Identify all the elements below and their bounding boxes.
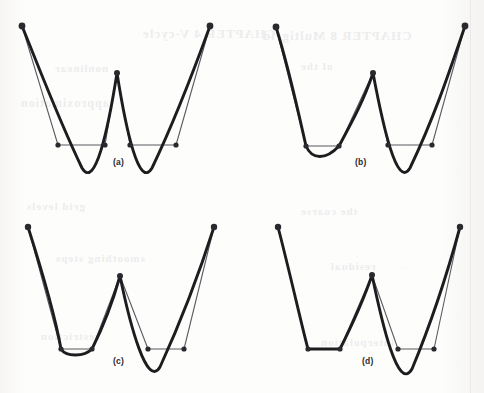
vertex-dot	[127, 142, 132, 147]
vertex-dot	[395, 346, 400, 351]
vertex-dot	[55, 142, 60, 147]
panel-d-approx-polyline	[278, 227, 460, 349]
panel-d-label: (d)	[362, 356, 373, 366]
vertex-dot	[145, 346, 150, 351]
panel-a-smooth-curve	[22, 26, 210, 173]
vertex-dot	[19, 23, 26, 30]
vertex-dot	[207, 23, 214, 30]
panel-b-smooth-curve	[276, 26, 465, 172]
vertex-dot	[58, 346, 63, 351]
vertex-dot	[336, 143, 341, 148]
vertex-dot	[211, 224, 217, 230]
panel-b-approx-polyline	[276, 26, 465, 146]
panel-a-label: (a)	[113, 157, 124, 167]
vertex-dot	[275, 224, 281, 230]
vertex-dot	[25, 224, 31, 230]
vertex-dot	[117, 273, 123, 279]
vertex-dot	[273, 24, 280, 31]
vertex-dot	[385, 142, 390, 147]
figure-root: CHAPTER 4 V-cyclenonlinearCHAPTER 8 Mult…	[0, 0, 484, 393]
vertex-dot	[102, 142, 107, 147]
panel-b-label: (b)	[355, 157, 366, 167]
vertex-dot	[429, 142, 434, 147]
vertex-dot	[305, 346, 310, 351]
vertex-dot	[181, 346, 186, 351]
vertex-dot	[431, 346, 436, 351]
vertex-dot	[337, 346, 342, 351]
panel-c-label: (c)	[113, 356, 124, 366]
vertex-dot	[457, 224, 463, 230]
vertex-dot	[173, 142, 178, 147]
vertex-dot	[369, 272, 375, 278]
panel-d-smooth-curve	[278, 227, 460, 374]
vertex-dot	[462, 23, 469, 30]
vertex-dot	[370, 70, 376, 76]
vertex-dot	[89, 346, 94, 351]
vertex-dot	[114, 70, 120, 76]
vertex-dot	[303, 143, 308, 148]
